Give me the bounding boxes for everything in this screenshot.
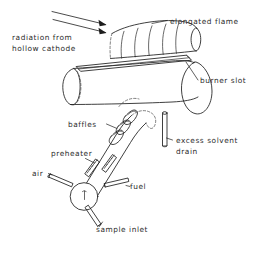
radiation-beam-arrows <box>52 12 107 35</box>
schematic-drawing: radiation from hollow cathode elongated … <box>0 0 257 257</box>
leader-baffles <box>107 124 118 129</box>
figure-canvas: radiation from hollow cathode elongated … <box>0 0 257 257</box>
nebulizer <box>70 183 98 211</box>
label-air: air <box>32 169 44 178</box>
label-preheater: preheater <box>51 149 93 158</box>
flame-striations <box>121 23 179 59</box>
burner-slot <box>77 55 192 71</box>
label-sample-inlet: sample inlet <box>96 225 148 234</box>
label-fuel: fuel <box>130 182 146 191</box>
leader-burner-slot <box>186 62 198 80</box>
label-burner-slot: burner slot <box>200 76 246 85</box>
label-elongated-flame: elongated flame <box>170 17 239 26</box>
label-excess-solvent-drain-line2: drain <box>176 147 198 156</box>
leader-preheater <box>86 159 94 163</box>
label-baffles: baffles <box>68 120 97 129</box>
air-inlet-tube <box>48 174 73 187</box>
label-radiation-from-hollow-cathode-line2: hollow cathode <box>12 44 76 53</box>
beam-arrow-upper <box>52 12 107 27</box>
label-excess-solvent-drain-line1: excess solvent <box>176 136 238 145</box>
drain-tube <box>163 112 168 147</box>
label-radiation-from-hollow-cathode-line1: radiation from <box>12 33 72 42</box>
elongated-flame-body <box>110 21 201 59</box>
